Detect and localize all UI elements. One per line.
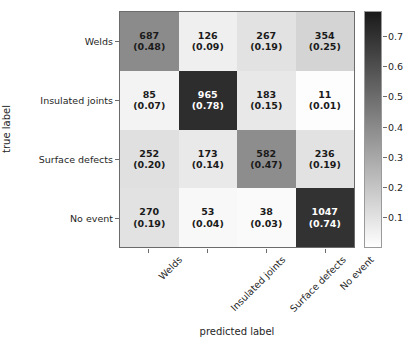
cell-count: 183 <box>256 89 276 100</box>
colorbar-tick-mark-0 <box>383 217 387 218</box>
cell-fraction: (0.04) <box>192 218 224 229</box>
y-axis-title: true label <box>1 105 12 153</box>
cell-fraction: (0.78) <box>192 100 224 111</box>
y-tick-label-1: Insulated joints <box>40 95 113 106</box>
matrix-cell-3-0: 270 (0.19) <box>120 188 179 247</box>
matrix-cell-0-3: 354 (0.25) <box>296 12 355 71</box>
matrix-cell-1-0: 85 (0.07) <box>120 71 179 130</box>
cell-fraction: (0.19) <box>133 218 165 229</box>
x-axis-title: predicted label <box>200 326 275 337</box>
cell-fraction: (0.48) <box>133 41 165 52</box>
matrix-cell-2-0: 252 (0.20) <box>120 130 179 189</box>
matrix-cell-0-1: 126 (0.09) <box>179 12 238 71</box>
matrix-cell-0-0: 687 (0.48) <box>120 12 179 71</box>
matrix-cell-2-1: 173 (0.14) <box>179 130 238 189</box>
matrix-cell-1-2: 183 (0.15) <box>237 71 296 130</box>
colorbar-tick-label-4: 0.5 <box>388 91 403 102</box>
cell-fraction: (0.19) <box>309 159 341 170</box>
matrix-cell-1-1: 965 (0.78) <box>179 71 238 130</box>
y-tick-label-3: No event <box>70 213 113 224</box>
cell-fraction: (0.15) <box>250 100 282 111</box>
y-tick-label-2: Surface defects <box>39 154 113 165</box>
colorbar-tick-label-2: 0.3 <box>388 152 403 163</box>
cell-count: 1047 <box>312 206 338 217</box>
confusion-matrix-figure: true label Welds Insulated joints Surfac… <box>0 0 415 351</box>
cell-count: 354 <box>315 30 335 41</box>
colorbar-tick-mark-1 <box>383 187 387 188</box>
cell-count: 53 <box>201 206 214 217</box>
cell-count: 85 <box>143 89 156 100</box>
cell-count: 173 <box>198 148 218 159</box>
matrix-cell-3-1: 53 (0.04) <box>179 188 238 247</box>
matrix-cell-grid: 687 (0.48) 126 (0.09) 267 (0.19) 354 (0.… <box>120 12 354 247</box>
matrix-cell-3-2: 38 (0.03) <box>237 188 296 247</box>
cell-count: 267 <box>256 30 276 41</box>
x-tick-mark-1 <box>207 249 208 253</box>
colorbar-tick-mark-3 <box>383 127 387 128</box>
colorbar-tick-label-1: 0.2 <box>388 182 403 193</box>
cell-fraction: (0.47) <box>250 159 282 170</box>
x-tick-mark-2 <box>266 249 267 253</box>
cell-count: 38 <box>260 206 273 217</box>
cell-count: 252 <box>139 148 159 159</box>
x-tick-mark-3 <box>325 249 326 253</box>
cell-fraction: (0.09) <box>192 41 224 52</box>
colorbar-tick-mark-4 <box>383 96 387 97</box>
cell-fraction: (0.01) <box>309 100 341 111</box>
x-tick-label-1: Insulated joints <box>228 254 287 313</box>
colorbar-tick-label-5: 0.6 <box>388 61 403 72</box>
matrix-cell-2-3: 236 (0.19) <box>296 130 355 189</box>
matrix-cell-3-3: 1047 (0.74) <box>296 188 355 247</box>
x-tick-label-0: Welds <box>156 254 184 282</box>
x-tick-mark-0 <box>148 249 149 253</box>
cell-count: 126 <box>198 30 218 41</box>
colorbar-tick-label-0: 0.1 <box>388 212 403 223</box>
cell-count: 965 <box>198 89 218 100</box>
matrix-cell-1-3: 11 (0.01) <box>296 71 355 130</box>
cell-fraction: (0.25) <box>309 41 341 52</box>
matrix-cell-2-2: 582 (0.47) <box>237 130 296 189</box>
colorbar-tick-mark-2 <box>383 157 387 158</box>
colorbar-gradient <box>365 12 381 247</box>
cell-count: 687 <box>139 30 159 41</box>
cell-fraction: (0.03) <box>250 218 282 229</box>
cell-count: 11 <box>318 89 331 100</box>
cell-count: 270 <box>139 206 159 217</box>
matrix-cell-0-2: 267 (0.19) <box>237 12 296 71</box>
cell-fraction: (0.14) <box>192 159 224 170</box>
colorbar-tick-mark-6 <box>383 36 387 37</box>
colorbar-tick-label-6: 0.7 <box>388 31 403 42</box>
colorbar-tick-mark-5 <box>383 66 387 67</box>
cell-fraction: (0.20) <box>133 159 165 170</box>
cell-count: 236 <box>315 148 335 159</box>
y-tick-label-0: Welds <box>85 36 113 47</box>
cell-fraction: (0.19) <box>250 41 282 52</box>
colorbar <box>364 11 382 248</box>
matrix-plot-area: 687 (0.48) 126 (0.09) 267 (0.19) 354 (0.… <box>119 11 355 248</box>
cell-fraction: (0.74) <box>309 218 341 229</box>
cell-fraction: (0.07) <box>133 100 165 111</box>
cell-count: 582 <box>256 148 276 159</box>
colorbar-tick-label-3: 0.4 <box>388 122 403 133</box>
